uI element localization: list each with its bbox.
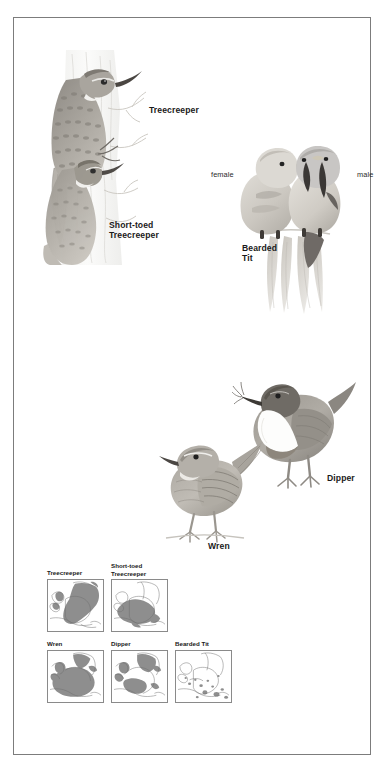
wren-illustration xyxy=(156,426,266,544)
label-treecreeper: Treecreeper xyxy=(149,106,199,116)
map-wren xyxy=(47,650,104,703)
label-male: male xyxy=(357,171,373,179)
map-label-treecreeper: Treecreeper xyxy=(47,569,82,577)
map-dipper xyxy=(111,650,168,703)
map-label-dipper: Dipper xyxy=(111,640,131,648)
label-dipper: Dipper xyxy=(327,474,355,484)
label-wren: Wren xyxy=(208,542,230,552)
map-bearded-tit xyxy=(175,650,232,703)
map-short-toed-treecreeper xyxy=(111,579,168,632)
bearded-tit-illustration xyxy=(226,136,351,314)
field-guide-page: Treecreeper Short-toed Treecreeper xyxy=(0,0,385,772)
plate-frame: Treecreeper Short-toed Treecreeper xyxy=(13,17,371,755)
label-female: female xyxy=(211,171,234,179)
label-bearded-tit: Bearded Tit xyxy=(242,244,277,263)
map-label-wren: Wren xyxy=(47,640,62,648)
map-treecreeper xyxy=(47,579,104,632)
label-short-toed-treecreeper: Short-toed Treecreeper xyxy=(109,221,159,240)
map-label-bearded-tit: Bearded Tit xyxy=(175,640,209,648)
map-label-short-toed-treecreeper: Short-toed Treecreeper xyxy=(111,562,146,577)
